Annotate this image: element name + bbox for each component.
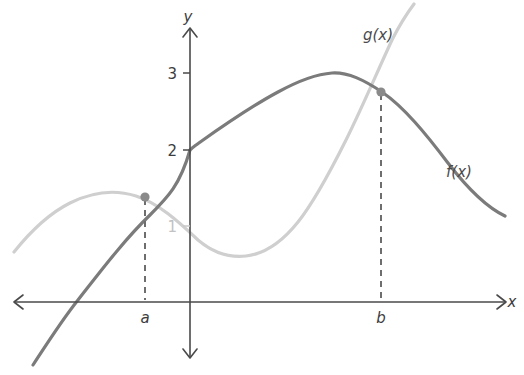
y-tick-label-3: 3	[167, 65, 177, 83]
y-tick-label-2: 2	[167, 142, 177, 160]
curve-label-f: f(x)	[446, 163, 472, 181]
curve-f-path	[33, 73, 505, 365]
intersection-dot-a	[140, 192, 149, 201]
y-axis-label: y	[183, 8, 194, 26]
y-tick-label-1: 1	[167, 218, 177, 236]
function-graph-plot: y x 3 2 1 a b g(x) f(x)	[0, 0, 524, 375]
x-axis-label: x	[507, 293, 517, 311]
curve-label-g: g(x)	[363, 26, 393, 44]
intersection-dot-b	[376, 87, 385, 96]
x-tick-label-b: b	[376, 309, 386, 327]
graph-figure: y x 3 2 1 a b g(x) f(x)	[0, 0, 524, 375]
curve-g-path	[14, 4, 414, 256]
x-tick-label-a: a	[140, 309, 149, 327]
